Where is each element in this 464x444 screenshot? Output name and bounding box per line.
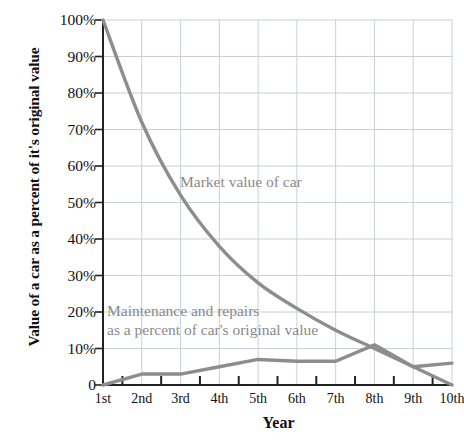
x-tick-label: 4th xyxy=(210,390,228,408)
x-tick-label: 5th xyxy=(249,390,267,408)
x-tick-label: 6th xyxy=(288,390,306,408)
series-label-maintenance-line1: Maintenance and repairs xyxy=(107,301,318,320)
series-label-maintenance-line2: as a percent of car's original value xyxy=(107,320,318,339)
x-tick-label: 9th xyxy=(404,390,422,408)
x-tick-label: 8th xyxy=(365,390,383,408)
x-tick-label: 10th xyxy=(440,390,464,408)
x-axis-tick-labels: 1st2nd3rd4th5th6th7th8th9th10th xyxy=(103,390,454,412)
series-label-market-value: Market value of car xyxy=(180,172,302,191)
x-tick-label: 2nd xyxy=(131,390,152,408)
x-tick-label: 1st xyxy=(95,390,111,408)
x-tick-label: 7th xyxy=(327,390,345,408)
series-label-maintenance: Maintenance and repairs as a percent of … xyxy=(107,301,318,339)
x-tick-label: 3rd xyxy=(171,390,190,408)
x-axis-title: Year xyxy=(103,414,454,432)
